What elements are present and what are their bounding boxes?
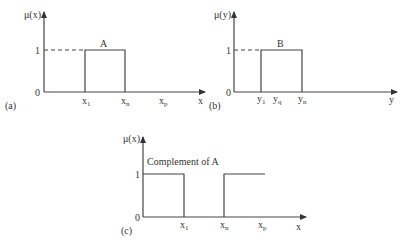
y-axis-label: μ(x) bbox=[24, 9, 41, 21]
fuzzy-set-diagram: μ(x) 1 0 A x1 xn xp x (a) μ(y) 1 0 B y1 … bbox=[0, 0, 416, 245]
complement-segment-left bbox=[143, 174, 184, 217]
x-tick-xp: xp bbox=[159, 95, 168, 108]
y-tick-1: 1 bbox=[35, 45, 40, 56]
y-tick-1: 1 bbox=[226, 45, 231, 56]
complement-segment-right bbox=[224, 174, 265, 217]
y-axis-label: μ(y) bbox=[214, 9, 231, 21]
set-label-b: B bbox=[277, 38, 284, 49]
y-axis-label: μ(x) bbox=[123, 133, 140, 145]
x-axis-label: y bbox=[389, 94, 394, 105]
set-label-complement: Complement of A bbox=[147, 156, 219, 167]
panel-label-c: (c) bbox=[121, 225, 132, 237]
y-tick-0: 0 bbox=[35, 87, 40, 98]
panel-b: μ(y) 1 0 B y1 yq yn y (b) bbox=[209, 9, 397, 112]
x-tick-x1: x1 bbox=[82, 95, 91, 108]
y-tick-0: 0 bbox=[135, 212, 140, 223]
x-axis-label: x bbox=[198, 95, 203, 106]
panel-a: μ(x) 1 0 A x1 xn xp x (a) bbox=[5, 9, 205, 112]
x-tick-xp: xp bbox=[258, 219, 267, 232]
panel-label-a: (a) bbox=[5, 100, 16, 112]
membership-function-a bbox=[85, 50, 125, 92]
y-tick-1: 1 bbox=[135, 169, 140, 180]
panel-label-b: (b) bbox=[209, 100, 221, 112]
membership-function-b bbox=[261, 50, 302, 92]
y-tick-0: 0 bbox=[226, 87, 231, 98]
y-tick-y1: y1 bbox=[257, 93, 266, 106]
panel-c: μ(x) 1 0 Complement of A x1 xn xp x (c) bbox=[121, 133, 306, 237]
x-tick-xn: xn bbox=[121, 95, 130, 108]
x-tick-x1: x1 bbox=[180, 219, 189, 232]
y-tick-yq: yq bbox=[273, 93, 282, 106]
x-tick-xn: xn bbox=[220, 219, 229, 232]
y-tick-yn: yn bbox=[298, 93, 307, 106]
set-label-a: A bbox=[100, 38, 108, 49]
x-axis-label: x bbox=[296, 221, 301, 232]
